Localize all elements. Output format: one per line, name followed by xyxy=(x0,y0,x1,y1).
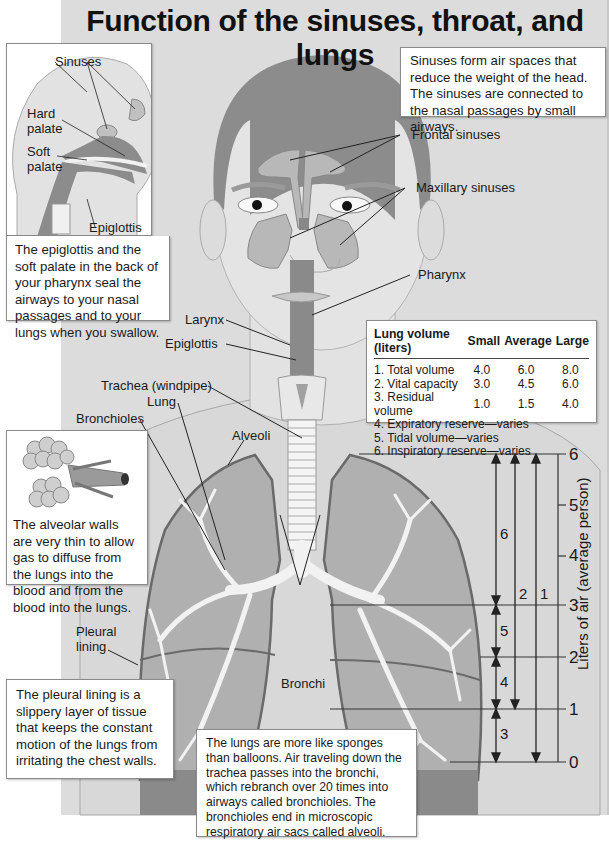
label-lung: Lung xyxy=(147,394,176,409)
label-soft-palate-line2: palate xyxy=(27,159,62,174)
lungs-note: The lungs are more like sponges than bal… xyxy=(196,729,417,837)
label-larynx: Larynx xyxy=(185,312,224,327)
arrow-label-4: 4 xyxy=(500,673,508,690)
sinus-note: Sinuses form air spaces that reduce the … xyxy=(400,47,606,117)
label-epiglottis: Epiglottis xyxy=(165,336,218,351)
alveolar-note: The alveolar walls are very thin to allo… xyxy=(13,517,141,617)
axis-label: Liters of air (average person) xyxy=(574,477,591,670)
cell-small: 3.0 xyxy=(464,378,501,392)
cell-average: 6.0 xyxy=(500,359,552,378)
cell-average: 1.5 xyxy=(500,391,552,418)
cell-large: 6.0 xyxy=(552,378,589,392)
row-label: 2. Vital capacity xyxy=(374,378,464,392)
label-epiglottis-inset: Epiglottis xyxy=(89,220,142,235)
nasal-passage xyxy=(299,218,309,230)
arrow-label-1: 1 xyxy=(540,585,548,602)
label-alveoli: Alveoli xyxy=(232,428,270,443)
label-pleural-line2: lining xyxy=(76,639,116,654)
arrow-label-3: 3 xyxy=(500,725,508,742)
label-pleural-lining: Pleural lining xyxy=(76,624,116,654)
table-row: 6. Inspiratory reserve—varies xyxy=(374,445,589,459)
tick-0: 0 xyxy=(569,753,578,773)
row-varies: 4. Expiratory reserve—varies xyxy=(374,418,589,432)
alveolar-note-box: The alveolar walls are very thin to allo… xyxy=(6,430,148,585)
header-measure: Lung volume (liters) xyxy=(374,325,464,359)
label-sinuses: Sinuses xyxy=(55,54,101,69)
cell-large: 4.0 xyxy=(552,391,589,418)
label-hard-palate-line1: Hard xyxy=(27,106,62,121)
right-ear xyxy=(418,200,444,260)
header-small: Small xyxy=(464,325,501,359)
header-average: Average xyxy=(500,325,552,359)
trachea xyxy=(288,420,316,550)
pharynx xyxy=(290,260,314,380)
table-header-row: Lung volume (liters) Small Average Large xyxy=(374,325,589,359)
epiglottis-note: The epiglottis and the soft palate in th… xyxy=(6,236,170,321)
table-row: 5. Tidal volume—varies xyxy=(374,432,589,446)
table-row: 1. Total volume 4.0 6.0 8.0 xyxy=(374,359,589,378)
alveoli-cluster-illustration xyxy=(13,435,143,513)
arrow-label-5: 5 xyxy=(500,622,508,639)
label-pleural-line1: Pleural xyxy=(76,624,116,639)
left-ear xyxy=(200,200,226,260)
table-row: 4. Expiratory reserve—varies xyxy=(374,418,589,432)
row-varies: 6. Inspiratory reserve—varies xyxy=(374,445,589,459)
label-trachea: Trachea (windpipe) xyxy=(101,378,212,393)
table-row: 3. Residual volume 1.0 1.5 4.0 xyxy=(374,391,589,418)
arrow-label-6: 6 xyxy=(500,525,508,542)
cell-small: 1.0 xyxy=(464,391,501,418)
row-varies: 5. Tidal volume—varies xyxy=(374,432,589,446)
label-bronchioles: Bronchioles xyxy=(76,411,144,426)
tick-1: 1 xyxy=(569,700,578,720)
pleural-note: The pleural lining is a slippery layer o… xyxy=(6,679,174,779)
label-bronchi: Bronchi xyxy=(281,676,325,691)
lung-volume-table: Lung volume (liters) Small Average Large… xyxy=(374,325,589,459)
head-profile-inset: Sinuses Hard palate Soft palate Epiglott… xyxy=(6,43,152,236)
cell-small: 4.0 xyxy=(464,359,501,378)
row-label: 3. Residual volume xyxy=(374,391,464,418)
label-hard-palate-line2: palate xyxy=(27,121,62,136)
row-label: 1. Total volume xyxy=(374,359,464,378)
tick-6: 6 xyxy=(569,445,578,465)
label-hard-palate: Hard palate xyxy=(27,106,62,136)
table-row: 2. Vital capacity 3.0 4.5 6.0 xyxy=(374,378,589,392)
arrow-label-2: 2 xyxy=(519,585,527,602)
label-pharynx: Pharynx xyxy=(418,267,466,282)
header-large: Large xyxy=(552,325,589,359)
head-profile-illustration xyxy=(7,44,152,236)
cell-average: 4.5 xyxy=(500,378,552,392)
label-soft-palate-line1: Soft xyxy=(27,144,62,159)
cell-large: 8.0 xyxy=(552,359,589,378)
label-maxillary-sinuses: Maxillary sinuses xyxy=(416,180,515,195)
lung-volume-table-box: Lung volume (liters) Small Average Large… xyxy=(366,320,597,423)
label-soft-palate: Soft palate xyxy=(27,144,62,174)
label-frontal-sinuses: Frontal sinuses xyxy=(412,127,500,142)
